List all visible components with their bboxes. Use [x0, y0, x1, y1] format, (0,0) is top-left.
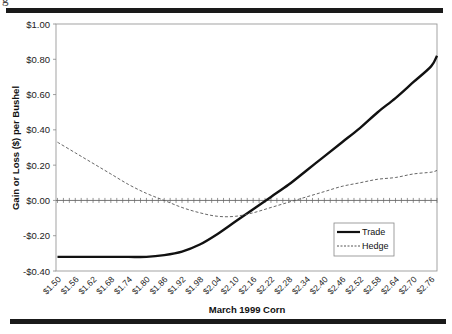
zero-line — [56, 198, 437, 203]
x-tick-label: $1.62 — [76, 274, 98, 296]
y-tick-label: $0.40 — [26, 124, 50, 135]
y-axis-title: Gain or Loss ($) per Bushel — [10, 86, 21, 210]
y-tick-label: $0.80 — [26, 54, 50, 65]
y-tick-label: $0.60 — [26, 89, 50, 100]
y-tick-label: -$0.20 — [23, 230, 50, 241]
x-tick-label: $2.46 — [325, 274, 347, 296]
y-tick-label: $1.00 — [26, 19, 50, 30]
x-tick-label: $2.34 — [290, 274, 312, 296]
y-axis: $1.00$0.80$0.60$0.40$0.20$0.00-$0.20-$0.… — [23, 19, 56, 277]
y-tick-label: $0.00 — [26, 195, 50, 206]
y-tick-label: $0.20 — [26, 160, 50, 171]
x-tick-label: $2.40 — [308, 274, 330, 296]
x-tick-label: $1.80 — [130, 274, 152, 296]
legend: Trade Hedge — [334, 223, 394, 256]
y-tick-label: -$0.40 — [23, 266, 50, 277]
x-tick-label: $2.70 — [397, 274, 419, 296]
x-tick-label: $2.28 — [272, 274, 294, 296]
x-tick-label: $1.86 — [148, 274, 170, 296]
x-tick-label: $1.56 — [59, 274, 81, 296]
x-axis: $1.50$1.56$1.62$1.68$1.74$1.80$1.86$1.92… — [41, 274, 437, 296]
legend-trade-label: Trade — [362, 227, 385, 237]
line-chart: $1.00$0.80$0.60$0.40$0.20$0.00-$0.20-$0.… — [0, 0, 452, 334]
x-tick-label: $2.16 — [236, 274, 258, 296]
x-tick-label: $1.98 — [183, 274, 205, 296]
x-tick-label: $2.76 — [414, 274, 436, 296]
x-tick-label: $1.92 — [165, 274, 187, 296]
x-tick-label: $1.68 — [94, 274, 116, 296]
x-tick-label: $2.52 — [343, 274, 365, 296]
x-tick-label: $2.04 — [201, 274, 223, 296]
x-tick-label: $1.74 — [112, 274, 134, 296]
x-tick-label: $2.10 — [219, 274, 241, 296]
hedge-line — [57, 142, 437, 217]
x-tick-label: $1.50 — [41, 274, 63, 296]
x-axis-title: March 1999 Corn — [209, 304, 286, 315]
x-tick-label: $2.58 — [361, 274, 383, 296]
x-tick-label: $2.64 — [379, 274, 401, 296]
legend-hedge-label: Hedge — [362, 241, 389, 251]
x-tick-label: $2.22 — [254, 274, 276, 296]
